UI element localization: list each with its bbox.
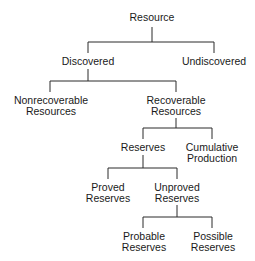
node-discovered: Discovered: [62, 56, 115, 67]
node-recoverable-resources: Recoverable Resources: [147, 95, 206, 117]
node-label: Discovered: [62, 56, 115, 67]
node-undiscovered: Undiscovered: [182, 56, 246, 67]
tree-connectors: [0, 0, 255, 261]
node-unproved-reserves: Unproved Reserves: [154, 182, 200, 204]
node-probable-reserves: Probable Reserves: [122, 231, 166, 253]
node-label-line2: Reserves: [86, 193, 130, 204]
node-proved-reserves: Proved Reserves: [86, 182, 130, 204]
node-label-line2: Resources: [14, 106, 88, 117]
node-label-line2: Reserves: [122, 242, 166, 253]
node-label: Reserves: [121, 142, 165, 153]
resource-classification-tree: Resource Discovered Undiscovered Nonreco…: [0, 0, 255, 261]
node-label: Resource: [130, 12, 175, 23]
node-label: Undiscovered: [182, 56, 246, 67]
node-label-line2: Resources: [147, 106, 206, 117]
node-cumulative-production: Cumulative Production: [186, 142, 239, 164]
node-resource: Resource: [130, 12, 175, 23]
node-possible-reserves: Possible Reserves: [191, 231, 235, 253]
node-label-line2: Production: [186, 153, 239, 164]
node-label-line2: Reserves: [154, 193, 200, 204]
node-reserves: Reserves: [121, 142, 165, 153]
node-label-line2: Reserves: [191, 242, 235, 253]
node-nonrecoverable-resources: Nonrecoverable Resources: [14, 95, 88, 117]
